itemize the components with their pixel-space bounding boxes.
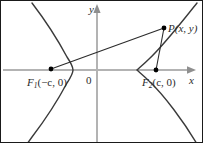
- point-p-name: P: [168, 22, 175, 34]
- focus-right-coords: (c, 0): [152, 76, 175, 88]
- hyperbola-figure: F1(−c, 0) F2(c, 0) P(x, y) 0 x y: [0, 0, 203, 143]
- x-axis-arrowhead-icon: [187, 66, 196, 74]
- y-axis-label: y: [89, 4, 94, 15]
- segment-f1-to-p: [51, 28, 164, 69]
- x-axis-label: x: [189, 75, 194, 86]
- focus-right-name: F: [142, 76, 149, 88]
- x-axis: [3, 66, 196, 74]
- focus-left-name: F: [27, 76, 34, 88]
- y-axis: [93, 4, 100, 143]
- focus-left-coords: (−c, 0): [37, 76, 66, 88]
- origin-label: 0: [86, 75, 92, 86]
- point-p-label: P(x, y): [168, 23, 197, 34]
- point-p-coords: (x, y): [175, 22, 198, 34]
- focus-left-point: [49, 67, 54, 72]
- focus-right-label: F2(c, 0): [142, 77, 176, 90]
- segment-f2-to-p: [156, 28, 164, 70]
- y-axis-arrowhead-icon: [93, 4, 100, 13]
- focus-right-point: [154, 68, 159, 73]
- point-p-marker: [162, 26, 167, 31]
- focus-left-label: F1(−c, 0): [27, 77, 67, 90]
- hyperbola-left-branch: [27, 3, 73, 143]
